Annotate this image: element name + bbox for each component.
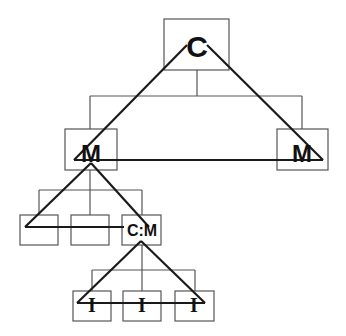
node-i-2-label: I	[138, 294, 146, 316]
node-root-label: C	[186, 30, 208, 63]
connectors-level1	[39, 170, 142, 215]
node-m-left-label: M	[81, 140, 101, 167]
node-cm-label: C:M	[127, 222, 157, 239]
node-m-right-label: M	[292, 140, 312, 167]
node-i-3-label: I	[190, 294, 198, 316]
connectors-level2	[92, 245, 195, 291]
node-i-1-label: I	[88, 294, 96, 316]
connectors-root	[90, 70, 302, 129]
node-empty-1-box	[20, 215, 58, 245]
node-empty-2-box	[71, 215, 109, 245]
tree-diagram: C M M C:M I I I	[0, 0, 346, 336]
